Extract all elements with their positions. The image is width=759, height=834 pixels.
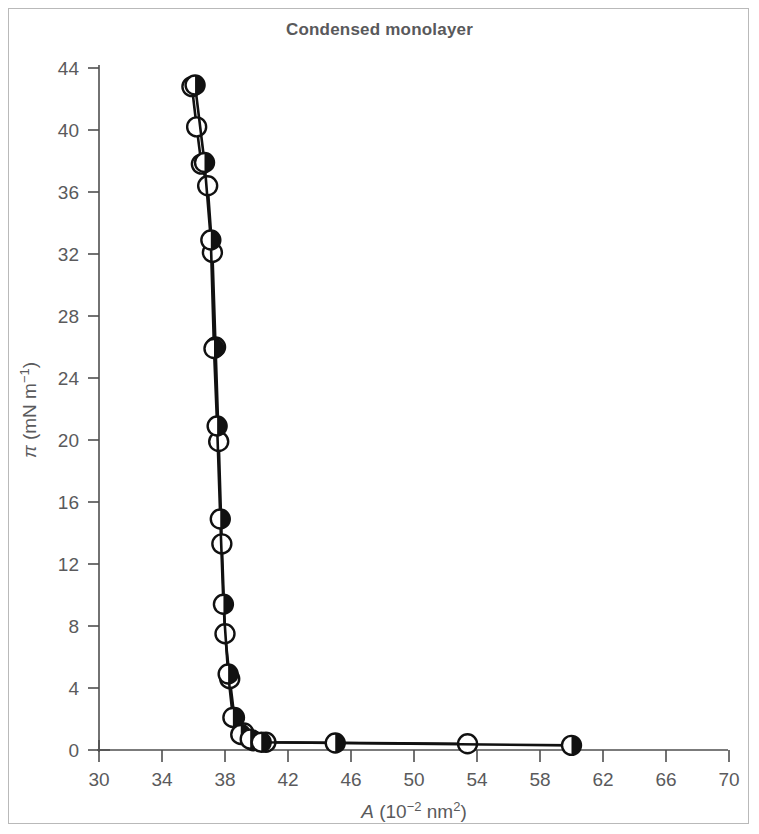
data-point-open[interactable] — [187, 117, 206, 136]
x-axis-title-exponent: −2 — [407, 799, 422, 814]
x-tick-label: 42 — [277, 769, 298, 790]
data-point-half-filled[interactable] — [208, 417, 227, 436]
data-point-half-filled[interactable] — [326, 734, 345, 753]
y-tick-label: 16 — [58, 492, 79, 513]
y-tick-label: 36 — [58, 182, 79, 203]
data-point-half-filled[interactable] — [186, 76, 205, 95]
y-tick-label: 24 — [58, 368, 80, 389]
x-tick-label: 34 — [151, 769, 173, 790]
y-tick-label: 8 — [68, 616, 79, 637]
y-tick-label: 44 — [58, 58, 80, 79]
y-tick-label: 0 — [68, 740, 79, 761]
y-tick-label: 28 — [58, 306, 79, 327]
data-point-half-filled[interactable] — [252, 733, 271, 752]
x-tick-label: 50 — [403, 769, 424, 790]
y-axis-tick-labels: 44 40 36 32 28 24 20 16 12 8 4 0 — [58, 58, 80, 761]
x-tick-label: 66 — [655, 769, 676, 790]
x-axis-title-paren-open: (10 — [374, 801, 407, 822]
y-axis-title-exponent: −1 — [17, 368, 32, 383]
data-point-half-filled[interactable] — [201, 231, 220, 250]
y-tick-label: 40 — [58, 120, 79, 141]
marker-circle-open — [187, 117, 206, 136]
x-tick-label: 58 — [529, 769, 550, 790]
data-point-half-filled[interactable] — [211, 510, 230, 529]
series-line — [192, 87, 468, 744]
x-axis-title-paren-close: ) — [460, 801, 466, 822]
isotherm-chart: 44 40 36 32 28 24 20 16 12 8 4 0 — [0, 0, 759, 834]
data-point-half-filled[interactable] — [195, 153, 214, 172]
y-tick-label: 20 — [58, 430, 79, 451]
x-axis-title-unit: nm — [422, 801, 454, 822]
x-tick-label: 46 — [340, 769, 361, 790]
x-tick-label: 30 — [88, 769, 109, 790]
x-tick-label: 62 — [592, 769, 613, 790]
figure-page: Condensed monolayer 44 40 36 32 28 — [0, 0, 759, 834]
data-point-half-filled[interactable] — [204, 339, 223, 358]
x-axis-title-symbol: A — [360, 801, 374, 822]
y-tick-label: 32 — [58, 244, 79, 265]
data-point-half-filled[interactable] — [219, 665, 238, 684]
y-tick-label: 4 — [68, 678, 79, 699]
y-tick-label: 12 — [58, 554, 79, 575]
data-point-half-filled[interactable] — [562, 736, 581, 755]
x-axis-title-unit-exponent: 2 — [453, 799, 460, 814]
x-tick-label: 38 — [214, 769, 235, 790]
y-axis-title: π (mN m−1) — [17, 362, 40, 458]
y-axis-title-paren-open: (mN m — [19, 383, 40, 445]
series-line — [195, 85, 571, 745]
x-tick-label: 54 — [466, 769, 488, 790]
x-axis-title: A (10−2 nm2) — [360, 799, 467, 822]
y-axis-title-paren-close: ) — [19, 362, 40, 368]
x-tick-label: 70 — [718, 769, 739, 790]
data-series-layer — [182, 76, 581, 755]
x-axis-tick-labels: 30 34 38 42 46 50 54 58 62 66 70 — [88, 769, 739, 790]
data-point-half-filled[interactable] — [214, 595, 233, 614]
